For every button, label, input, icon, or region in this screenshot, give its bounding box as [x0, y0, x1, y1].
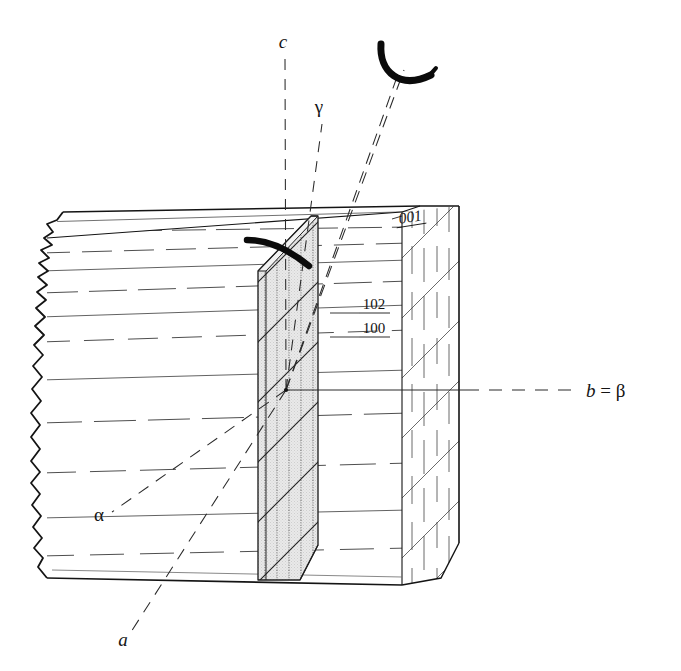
block-front-face	[47, 212, 402, 585]
axis-label-gamma: γ	[314, 96, 323, 117]
axis-label-c: c	[279, 31, 288, 52]
upper-arc	[381, 44, 431, 80]
page-header-ghost	[539, 0, 541, 11]
miller-index-100: 100	[363, 320, 386, 336]
axes-origin-point	[284, 388, 288, 392]
crystal-diagram: c γ b = β b = β α a 001 102 100	[0, 0, 681, 671]
block-end-face	[402, 206, 459, 585]
crystal-block	[31, 190, 470, 625]
figure-root: c γ b = β b = β α a 001 102 100	[0, 0, 681, 671]
miller-index-102: 102	[363, 296, 386, 312]
axis-label-alpha: α	[94, 504, 104, 525]
axis-label-a: a	[118, 629, 128, 650]
